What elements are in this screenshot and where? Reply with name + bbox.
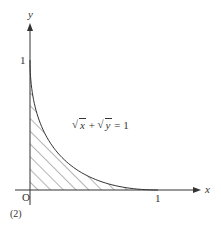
x-axis-arrow-icon — [193, 187, 201, 193]
origin-label: O — [22, 192, 30, 203]
y-axis-label: y — [28, 9, 33, 20]
plot-canvas — [0, 0, 221, 227]
sqrt-x: √x — [72, 119, 86, 132]
sqrt-y: √y — [98, 119, 112, 132]
radical-icon: √ — [72, 118, 78, 131]
graph-figure: y x 1 1 O (2) √x + √y = 1 — [0, 0, 221, 227]
radical-icon: √ — [98, 118, 104, 131]
equation-rhs: 1 — [123, 119, 129, 131]
y-axis-arrow-icon — [27, 23, 33, 31]
x-axis-label: x — [205, 184, 210, 195]
y-tick-1: 1 — [20, 55, 26, 66]
plus-sign: + — [89, 119, 95, 131]
equals-sign: = — [114, 119, 120, 131]
equation-label: √x + √y = 1 — [72, 119, 129, 132]
x-tick-1: 1 — [155, 193, 161, 204]
figure-number-label: (2) — [10, 208, 22, 219]
